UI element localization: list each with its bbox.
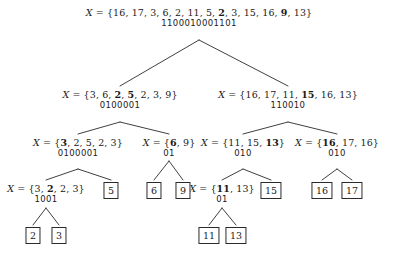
- tree-node-l2-b: X = {6, 9} 01: [143, 138, 196, 158]
- recursion-tree-figure: X = {16, 17, 3, 6, 2, 11, 5, 2, 3, 15, 1…: [0, 0, 397, 255]
- edge-l1left-left: [78, 122, 120, 134]
- leaf-node-16: 16: [311, 182, 332, 199]
- node-set-label: X = {3, 2, 2, 3}: [7, 184, 84, 194]
- tree-node-l2-c: X = {11, 15, 13} 010: [201, 138, 285, 158]
- node-bitstring: 1100010001101: [86, 19, 312, 28]
- leaf-node-9: 9: [175, 182, 190, 199]
- node-set-label: X = {11, 13}: [189, 184, 254, 194]
- node-bitstring: 01: [189, 195, 254, 204]
- tree-node-l3-c: X = {11, 13} 01: [189, 184, 254, 204]
- tree-node-l1-right: X = {16, 17, 11, 15, 16, 13} 110010: [218, 90, 358, 110]
- edge-l3a-right: [46, 208, 59, 225]
- edge-l2a-right: [78, 169, 111, 180]
- node-set-label: X = {16, 17, 16}: [295, 138, 379, 148]
- edge-root-right: [199, 40, 288, 86]
- edge-l1right-left: [243, 122, 288, 134]
- tree-node-l2-d: X = {16, 17, 16} 010: [295, 138, 379, 158]
- node-set-label: X = {16, 17, 3, 6, 2, 11, 5, 2, 3, 15, 1…: [86, 8, 312, 18]
- leaf-node-11: 11: [198, 227, 219, 244]
- node-set-label: X = {16, 17, 11, 15, 16, 13}: [218, 90, 358, 100]
- node-bitstring: 010: [201, 149, 285, 158]
- node-bitstring: 01: [143, 149, 196, 158]
- node-set-label: X = {6, 9}: [143, 138, 196, 148]
- node-bitstring: 0100001: [33, 149, 123, 158]
- edge-l2b-right: [169, 161, 183, 180]
- edge-root-left: [120, 40, 199, 86]
- node-set-label: X = {3, 2, 5, 2, 3}: [33, 138, 123, 148]
- edge-l3a-left: [33, 208, 46, 225]
- node-bitstring: 0100001: [62, 101, 177, 110]
- tree-node-l1-left: X = {3, 6, 2, 5, 2, 3, 9} 0100001: [62, 90, 177, 110]
- edge-l3c-right: [222, 208, 236, 225]
- leaf-node-15: 15: [260, 182, 281, 199]
- tree-node-l3-a: X = {3, 2, 2, 3} 1001: [7, 184, 84, 204]
- node-set-label: X = {11, 15, 13}: [201, 138, 285, 148]
- tree-node-l2-a: X = {3, 2, 5, 2, 3} 0100001: [33, 138, 123, 158]
- node-bitstring: 1001: [7, 195, 84, 204]
- edge-l2a-left: [46, 169, 78, 180]
- tree-node-root: X = {16, 17, 3, 6, 2, 11, 5, 2, 3, 15, 1…: [86, 8, 312, 28]
- edge-l3c-left: [209, 208, 222, 225]
- leaf-node-3: 3: [51, 227, 66, 244]
- edge-l1left-right: [120, 122, 169, 134]
- edge-l2c-left: [222, 169, 243, 180]
- leaf-node-6: 6: [146, 182, 161, 199]
- edge-l2b-left: [154, 161, 169, 180]
- node-bitstring: 110010: [218, 101, 358, 110]
- edge-l2d-left: [322, 169, 337, 180]
- edge-l2d-right: [337, 169, 352, 180]
- edge-l1right-right: [288, 122, 337, 134]
- leaf-node-5: 5: [103, 182, 118, 199]
- node-set-label: X = {3, 6, 2, 5, 2, 3, 9}: [62, 90, 177, 100]
- leaf-node-13: 13: [225, 227, 246, 244]
- edge-l2c-right: [243, 169, 271, 180]
- leaf-node-17: 17: [341, 182, 362, 199]
- node-bitstring: 010: [295, 149, 379, 158]
- tree-edge-layer: [0, 0, 397, 255]
- leaf-node-2: 2: [25, 227, 40, 244]
